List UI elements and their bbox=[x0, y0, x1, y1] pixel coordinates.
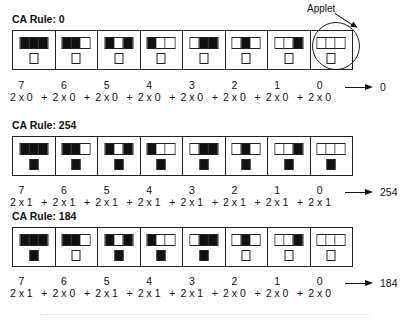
rule-cell bbox=[13, 137, 56, 175]
rule-cell bbox=[56, 228, 99, 266]
filled-square-icon bbox=[293, 38, 302, 48]
neighborhood-pattern bbox=[104, 37, 133, 49]
output-filled-square-icon bbox=[29, 250, 38, 261]
rule-cell bbox=[141, 31, 184, 69]
output-empty-square-icon bbox=[327, 250, 336, 261]
filled-square-icon bbox=[123, 144, 132, 154]
empty-square-icon bbox=[275, 144, 284, 154]
filled-square-icon bbox=[20, 235, 29, 245]
filled-square-icon bbox=[148, 38, 157, 48]
filled-square-icon bbox=[148, 144, 157, 154]
empty-square-icon bbox=[233, 235, 242, 245]
exponent: 7 bbox=[1, 80, 41, 91]
empty-square-icon bbox=[327, 235, 336, 245]
filled-square-icon bbox=[63, 235, 72, 245]
term-value: 2 x 1 bbox=[257, 196, 297, 208]
power-of-two-term: 42 x 0 bbox=[129, 80, 169, 103]
empty-square-icon bbox=[251, 38, 260, 48]
neighborhood-pattern bbox=[62, 143, 91, 155]
filled-square-icon bbox=[199, 235, 208, 245]
output-filled-square-icon bbox=[242, 159, 251, 170]
term-value: 2 x 0 bbox=[257, 287, 297, 299]
rule-result: 184 bbox=[380, 277, 398, 289]
neighborhood-pattern bbox=[62, 37, 91, 49]
neighborhood-pattern bbox=[104, 234, 133, 246]
power-of-two-term: 62 x 0 bbox=[44, 80, 84, 103]
filled-square-icon bbox=[38, 144, 47, 154]
rule-cell bbox=[98, 228, 141, 266]
empty-square-icon bbox=[327, 38, 336, 48]
filled-square-icon bbox=[293, 144, 302, 154]
output-empty-square-icon bbox=[242, 53, 251, 64]
rule-cell bbox=[98, 137, 141, 175]
rule-cell bbox=[98, 31, 141, 69]
rule-cell bbox=[311, 31, 353, 69]
empty-square-icon bbox=[114, 38, 123, 48]
neighborhood-pattern bbox=[274, 37, 303, 49]
filled-square-icon bbox=[72, 235, 81, 245]
neighborhood-pattern bbox=[19, 37, 48, 49]
filled-square-icon bbox=[29, 144, 38, 154]
neighborhood-pattern bbox=[317, 37, 346, 49]
rule-title: CA Rule: 254 bbox=[12, 119, 76, 131]
empty-square-icon bbox=[336, 144, 345, 154]
filled-square-icon bbox=[105, 235, 114, 245]
neighborhood-pattern bbox=[19, 234, 48, 246]
power-of-two-term: 52 x 0 bbox=[87, 80, 127, 103]
empty-square-icon bbox=[190, 144, 199, 154]
output-filled-square-icon bbox=[114, 250, 123, 261]
power-of-two-term: 62 x 1 bbox=[44, 185, 84, 208]
empty-square-icon bbox=[190, 235, 199, 245]
power-of-two-term: 12 x 0 bbox=[257, 80, 297, 103]
empty-square-icon bbox=[190, 38, 199, 48]
term-value: 2 x 1 bbox=[1, 287, 41, 299]
term-value: 2 x 0 bbox=[214, 91, 254, 103]
empty-square-icon bbox=[233, 144, 242, 154]
term-value: 2 x 0 bbox=[1, 91, 41, 103]
filled-square-icon bbox=[63, 38, 72, 48]
term-value: 2 x 1 bbox=[1, 196, 41, 208]
empty-square-icon bbox=[336, 38, 345, 48]
exponent: 1 bbox=[257, 80, 297, 91]
empty-square-icon bbox=[284, 144, 293, 154]
term-value: 2 x 0 bbox=[300, 287, 340, 299]
exponent: 0 bbox=[300, 185, 340, 196]
term-value: 2 x 0 bbox=[300, 91, 340, 103]
empty-square-icon bbox=[284, 38, 293, 48]
term-value: 2 x 1 bbox=[172, 287, 212, 299]
output-filled-square-icon bbox=[199, 159, 208, 170]
rule-cell bbox=[226, 31, 269, 69]
output-filled-square-icon bbox=[284, 159, 293, 170]
filled-square-icon bbox=[123, 38, 132, 48]
right-arrow-icon bbox=[345, 87, 367, 88]
term-value: 2 x 0 bbox=[172, 91, 212, 103]
rule-title: CA Rule: 184 bbox=[12, 210, 76, 222]
rule-cell bbox=[268, 137, 311, 175]
output-filled-square-icon bbox=[157, 159, 166, 170]
neighborhood-pattern bbox=[232, 37, 261, 49]
neighborhood-pattern bbox=[317, 234, 346, 246]
power-of-two-term: 72 x 0 bbox=[1, 80, 41, 103]
output-filled-square-icon bbox=[29, 159, 38, 170]
filled-square-icon bbox=[148, 235, 157, 245]
empty-square-icon bbox=[336, 235, 345, 245]
term-value: 2 x 1 bbox=[129, 196, 169, 208]
term-value: 2 x 1 bbox=[44, 196, 84, 208]
filled-square-icon bbox=[199, 38, 208, 48]
power-of-two-term: 72 x 1 bbox=[1, 276, 41, 299]
power-of-two-term: 22 x 0 bbox=[214, 80, 254, 103]
neighborhood-pattern bbox=[274, 143, 303, 155]
filled-square-icon bbox=[20, 144, 29, 154]
output-filled-square-icon bbox=[157, 250, 166, 261]
term-value: 2 x 0 bbox=[44, 287, 84, 299]
power-of-two-term: 32 x 1 bbox=[172, 185, 212, 208]
filled-square-icon bbox=[72, 38, 81, 48]
rule-cell bbox=[13, 31, 56, 69]
empty-square-icon bbox=[318, 235, 327, 245]
exponent: 5 bbox=[87, 185, 127, 196]
neighborhood-pattern bbox=[62, 234, 91, 246]
output-filled-square-icon bbox=[199, 250, 208, 261]
term-value: 2 x 0 bbox=[44, 91, 84, 103]
empty-square-icon bbox=[81, 38, 90, 48]
power-of-two-term: 02 x 0 bbox=[300, 276, 340, 299]
